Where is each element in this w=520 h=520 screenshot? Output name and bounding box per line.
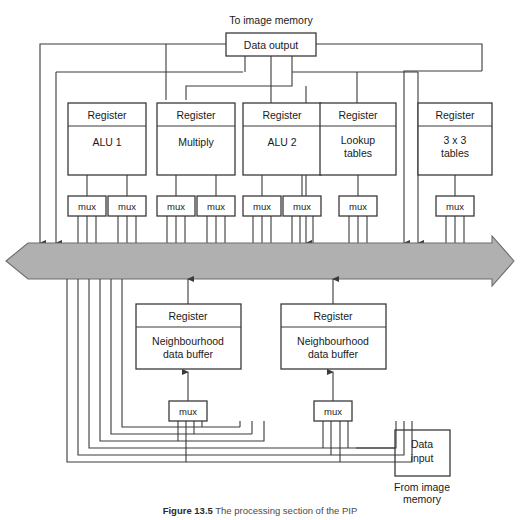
top-annotation: To image memory: [229, 14, 313, 26]
unit-alu-1: Register ALU 1: [68, 103, 146, 175]
figure-container: To image memory Data output Register ALU…: [0, 0, 520, 520]
mux-alu1-b: mux: [108, 196, 146, 243]
mux-label: mux: [349, 201, 367, 212]
bottom-annotation-line1: From image: [394, 481, 450, 493]
unit-3x3-tables: Register 3 x 3 tables: [418, 103, 492, 175]
unit-lookup-tables: Register Lookup tables: [320, 103, 396, 175]
mux-lookup: mux: [339, 196, 377, 243]
mux-ndb-left: mux: [169, 401, 207, 421]
unit-ndb-left: Register Neighbourhood data buffer: [136, 279, 241, 369]
mux-alu2-a: mux: [243, 196, 281, 243]
pip-processing-section-diagram: To image memory Data output Register ALU…: [0, 0, 520, 520]
unit-3x3-tables-name: 3 x 3: [444, 134, 467, 146]
mux-alu2-b: mux: [283, 196, 321, 243]
unit-ndb-right-name-line2: data buffer: [308, 348, 359, 360]
mux-label: mux: [324, 406, 342, 417]
unit-lookup-tables-name-line2: tables: [344, 147, 372, 159]
unit-alu-1-name: ALU 1: [92, 136, 121, 148]
unit-lookup-tables-name: Lookup: [341, 134, 376, 146]
wire-output-drop-c: [186, 56, 292, 100]
mux-label: mux: [78, 201, 96, 212]
mux-label: mux: [179, 406, 197, 417]
unit-alu-2-register-label: Register: [262, 109, 302, 121]
mux-label: mux: [293, 201, 311, 212]
unit-ndb-left-name-line2: data buffer: [163, 348, 214, 360]
mux-label: mux: [253, 201, 271, 212]
mux-ndb-right: mux: [314, 401, 352, 421]
unit-ndb-left-register-label: Register: [168, 310, 208, 322]
unit-multiply: Register Multiply: [157, 103, 235, 175]
mux-label: mux: [207, 201, 225, 212]
data-output-label: Data output: [244, 39, 298, 51]
mux-multiply-a: mux: [157, 196, 195, 243]
figure-caption-text: The processing section of the PIP: [215, 505, 357, 516]
bottom-annotation-line2: memory: [403, 493, 442, 505]
data-input-line1: Data: [411, 438, 433, 450]
unit-multiply-register-label: Register: [176, 109, 216, 121]
unit-3x3-tables-register-label: Register: [435, 109, 475, 121]
mux-multiply-b: mux: [197, 196, 235, 243]
mux-3x3: mux: [436, 196, 474, 243]
unit-lookup-tables-register-label: Register: [338, 109, 378, 121]
figure-caption: Figure 13.5 The processing section of th…: [0, 505, 520, 516]
mux-label: mux: [167, 201, 185, 212]
unit-alu-2: Register ALU 2: [243, 103, 321, 175]
figure-caption-label: Figure 13.5: [163, 505, 213, 516]
unit-multiply-name: Multiply: [178, 136, 214, 148]
unit-ndb-right-name: Neighbourhood: [297, 335, 369, 347]
mux-label: mux: [118, 201, 136, 212]
wire-output-rail-right: [316, 44, 482, 71]
unit-3x3-tables-name-line2: tables: [441, 147, 469, 159]
unit-ndb-right-register-label: Register: [313, 310, 353, 322]
mux-alu1-a: mux: [68, 196, 106, 243]
mux-label: mux: [446, 201, 464, 212]
data-input-line2: input: [411, 452, 434, 464]
unit-ndb-left-name: Neighbourhood: [152, 335, 224, 347]
data-input-block: Data input From image memory: [394, 430, 450, 505]
unit-alu-1-register-label: Register: [87, 109, 127, 121]
unit-ndb-right: Register Neighbourhood data buffer: [281, 279, 386, 369]
unit-alu-2-name: ALU 2: [267, 136, 296, 148]
data-bus: [6, 236, 514, 286]
